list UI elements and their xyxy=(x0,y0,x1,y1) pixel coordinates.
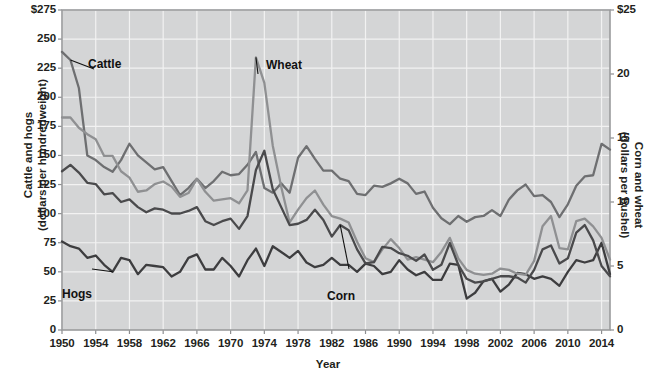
plot-background-group xyxy=(62,10,610,330)
y-axis-right-tick-label: $25 xyxy=(617,3,656,15)
series-label-cattle: Cattle xyxy=(88,57,121,71)
series-label-wheat: Wheat xyxy=(266,58,302,72)
y-axis-left-tick-label: 0 xyxy=(12,323,56,335)
y-axis-right-title-line1: Corn and wheat xyxy=(633,142,645,228)
x-axis-title: Year xyxy=(0,358,656,372)
y-axis-left-title: Cattle and hogs (dollars per hundredweig… xyxy=(22,10,49,300)
series-label-corn: Corn xyxy=(327,289,355,303)
y-axis-left-title-line2: (dollars per hundredweight) xyxy=(36,79,48,231)
y-axis-left-title-line1: Cattle and hogs xyxy=(22,112,34,198)
y-axis-right-title-line2: (dollars per bushel) xyxy=(619,132,631,239)
x-axis-tick-label: 2014 xyxy=(582,337,622,349)
y-axis-right-title: Corn and wheat (dollars per bushel) xyxy=(618,40,645,330)
plot-background xyxy=(62,10,610,330)
series-label-hogs: Hogs xyxy=(62,287,92,301)
price-chart: 0255075100125150175200225250$275 0510152… xyxy=(0,0,656,376)
